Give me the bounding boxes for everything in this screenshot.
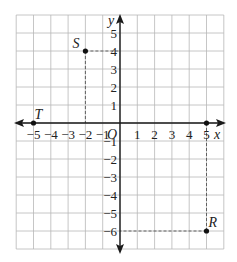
x-tick-label: 4 xyxy=(186,127,193,142)
x-axis-label: x xyxy=(213,127,221,142)
x-tick-label: −2 xyxy=(78,127,92,142)
y-tick-label: −5 xyxy=(103,206,117,221)
point-label-r: R xyxy=(208,215,218,230)
origin-label: O xyxy=(107,127,117,142)
point-label-s: S xyxy=(72,36,79,51)
x-tick-label: −5 xyxy=(27,127,41,142)
coordinate-plane: −5−4−3−2−11234554321−1−2−3−4−5−6 x y O S… xyxy=(0,0,237,262)
x-tick-label: 5 xyxy=(203,127,210,142)
y-tick-label: −4 xyxy=(103,188,117,203)
y-tick-label: −6 xyxy=(103,224,117,239)
x-tick-label: 1 xyxy=(134,127,141,142)
y-tick-label: 5 xyxy=(111,26,118,41)
y-tick-label: 1 xyxy=(111,98,118,113)
x-tick-label: 2 xyxy=(151,127,158,142)
y-axis-label: y xyxy=(106,13,115,28)
x-tick-label: −4 xyxy=(44,127,58,142)
point-marker xyxy=(83,48,88,53)
tick-labels: −5−4−3−2−11234554321−1−2−3−4−5−6 xyxy=(27,26,210,239)
y-tick-label: 3 xyxy=(111,62,118,77)
x-tick-label: −3 xyxy=(61,127,75,142)
point-label-t: T xyxy=(35,107,44,122)
y-tick-label: 4 xyxy=(111,44,118,59)
y-tick-label: −3 xyxy=(103,170,117,185)
point-marker xyxy=(204,120,209,125)
y-tick-label: 2 xyxy=(111,80,118,95)
x-tick-label: 3 xyxy=(169,127,176,142)
y-tick-label: −2 xyxy=(103,152,117,167)
